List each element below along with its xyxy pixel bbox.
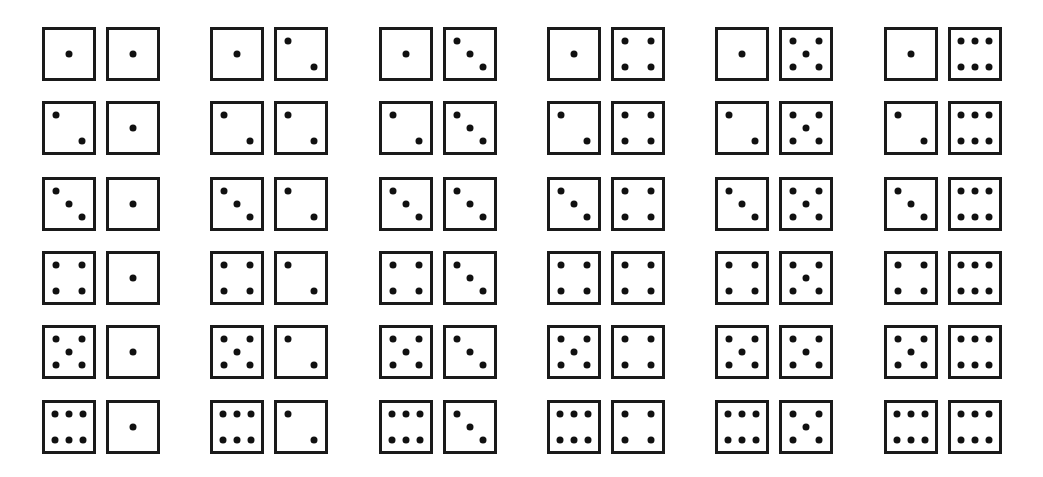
pip-icon (52, 362, 59, 369)
pip-icon (585, 410, 592, 417)
pip-icon (922, 437, 929, 444)
pip-icon (648, 64, 655, 71)
die-face-2 (884, 101, 938, 155)
pip-icon (893, 437, 900, 444)
pip-icon (311, 362, 318, 369)
pip-icon (725, 335, 732, 342)
die-face-6 (948, 27, 1002, 81)
pip-icon (584, 335, 591, 342)
dice-pair-3-1 (42, 177, 162, 231)
pip-icon (480, 64, 487, 71)
die-face-2 (715, 101, 769, 155)
pip-icon (388, 410, 395, 417)
pip-icon (972, 214, 979, 221)
die-face-2 (210, 101, 264, 155)
pip-icon (453, 187, 460, 194)
pip-icon (972, 437, 979, 444)
die-face-6 (547, 400, 601, 454)
dice-pair-5-2 (210, 325, 330, 379)
pip-icon (130, 51, 137, 58)
dice-pair-4-1 (42, 251, 162, 305)
pip-icon (789, 437, 796, 444)
die-face-1 (379, 27, 433, 81)
pip-icon (789, 288, 796, 295)
die-face-6 (948, 101, 1002, 155)
pip-icon (648, 111, 655, 118)
pip-icon (51, 410, 58, 417)
dice-pair-1-4 (547, 27, 667, 81)
pip-icon (922, 410, 929, 417)
dice-pair-2-1 (42, 101, 162, 155)
pip-icon (219, 410, 226, 417)
pip-icon (986, 111, 993, 118)
pip-icon (467, 349, 474, 356)
pip-icon (556, 410, 563, 417)
pip-icon (220, 335, 227, 342)
die-face-5 (779, 101, 833, 155)
die-face-2 (42, 101, 96, 155)
pip-icon (894, 187, 901, 194)
pip-icon (752, 214, 759, 221)
pip-icon (752, 335, 759, 342)
die-face-3 (547, 177, 601, 231)
pip-icon (79, 335, 86, 342)
pip-icon (389, 261, 396, 268)
pip-icon (403, 51, 410, 58)
die-face-1 (106, 177, 160, 231)
dice-pair-2-6 (884, 101, 1004, 155)
pip-icon (389, 111, 396, 118)
pip-icon (557, 187, 564, 194)
dice-pair-4-3 (379, 251, 499, 305)
pip-icon (972, 288, 979, 295)
die-face-1 (106, 27, 160, 81)
pip-icon (908, 437, 915, 444)
die-face-1 (547, 27, 601, 81)
pip-icon (816, 335, 823, 342)
die-face-1 (106, 251, 160, 305)
pip-icon (621, 335, 628, 342)
die-face-4 (611, 251, 665, 305)
die-face-3 (443, 177, 497, 231)
pip-icon (803, 275, 810, 282)
pip-icon (621, 37, 628, 44)
pip-icon (453, 335, 460, 342)
pip-icon (66, 51, 73, 58)
pip-icon (957, 138, 964, 145)
die-face-2 (274, 27, 328, 81)
die-face-6 (884, 400, 938, 454)
die-face-3 (884, 177, 938, 231)
die-face-4 (884, 251, 938, 305)
pip-icon (894, 261, 901, 268)
pip-icon (621, 187, 628, 194)
die-face-1 (42, 27, 96, 81)
pip-icon (725, 362, 732, 369)
pip-icon (311, 437, 318, 444)
pip-icon (752, 362, 759, 369)
pip-icon (648, 335, 655, 342)
dice-pair-6-2 (210, 400, 330, 454)
pip-icon (921, 288, 928, 295)
pip-icon (584, 362, 591, 369)
pip-icon (739, 437, 746, 444)
dice-pair-1-5 (715, 27, 835, 81)
pip-icon (972, 37, 979, 44)
pip-icon (621, 111, 628, 118)
dice-pair-1-6 (884, 27, 1004, 81)
dice-pair-4-5 (715, 251, 835, 305)
pip-icon (557, 261, 564, 268)
pip-icon (480, 214, 487, 221)
pip-icon (571, 410, 578, 417)
pip-icon (284, 410, 291, 417)
die-face-1 (884, 27, 938, 81)
pip-icon (130, 201, 137, 208)
pip-icon (908, 51, 915, 58)
pip-icon (724, 410, 731, 417)
pip-icon (789, 362, 796, 369)
pip-icon (621, 64, 628, 71)
die-face-2 (274, 101, 328, 155)
pip-icon (585, 437, 592, 444)
pip-icon (789, 138, 796, 145)
pip-icon (388, 437, 395, 444)
pip-icon (621, 261, 628, 268)
pip-icon (79, 362, 86, 369)
